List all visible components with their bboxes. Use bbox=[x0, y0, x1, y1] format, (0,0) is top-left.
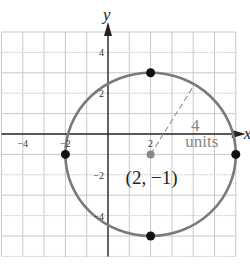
x-axis-label: x bbox=[243, 124, 250, 143]
y-tick-label: 4 bbox=[99, 47, 104, 58]
y-axis-label: y bbox=[101, 5, 111, 24]
x-tick-label: 2 bbox=[148, 138, 153, 149]
y-tick-label: 2 bbox=[99, 88, 104, 99]
center-point-label: (2, −1) bbox=[126, 167, 178, 189]
x-tick-label: −2 bbox=[60, 138, 71, 149]
point-right bbox=[231, 150, 240, 159]
point-bottom bbox=[146, 232, 155, 241]
point-top bbox=[146, 68, 155, 77]
radius-unit-label: units bbox=[185, 132, 218, 151]
y-tick-label: −4 bbox=[93, 211, 104, 222]
center-point bbox=[147, 150, 155, 158]
circle-graph: xy−4−2242−2−4(2, −1)4units bbox=[0, 0, 250, 267]
y-tick-label: −2 bbox=[93, 170, 104, 181]
point-left bbox=[61, 150, 70, 159]
y-axis-arrow-icon bbox=[104, 22, 112, 36]
x-tick-label: −4 bbox=[17, 138, 28, 149]
